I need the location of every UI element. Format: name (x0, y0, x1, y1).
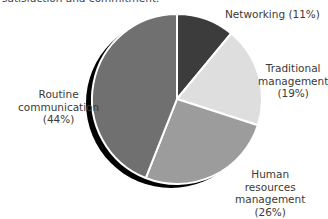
label-hr-line1: Human (235, 168, 305, 181)
label-traditional-line1: Traditional (258, 62, 328, 75)
label-hr-line3: management (235, 193, 305, 206)
pie-slices (92, 14, 262, 184)
label-routine-line2: communication (18, 101, 99, 114)
label-hr-line2: resources (235, 181, 305, 194)
label-networking: Networking (11%) (225, 8, 320, 21)
label-routine-communication: Routine communication (44%) (18, 88, 99, 126)
label-routine-pct: (44%) (18, 113, 99, 126)
label-traditional-pct: (19%) (258, 87, 328, 100)
label-hr-pct: (26%) (235, 206, 305, 219)
label-traditional-line2: management (258, 75, 328, 88)
label-human-resources-management: Human resources management (26%) (235, 168, 305, 218)
label-routine-line1: Routine (18, 88, 99, 101)
label-traditional-management: Traditional management (19%) (258, 62, 328, 100)
